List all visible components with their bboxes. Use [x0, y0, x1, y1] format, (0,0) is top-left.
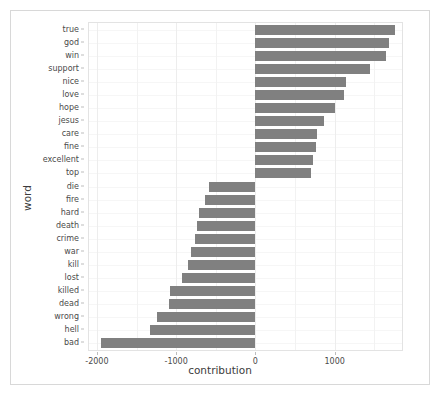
- y-axis-tick-mark: [81, 329, 84, 330]
- y-axis-tick-mark: [81, 303, 84, 304]
- bar: [209, 182, 256, 192]
- bar-series: [89, 23, 402, 350]
- y-axis-tick-mark: [81, 107, 84, 108]
- y-axis-tick-label: nice: [62, 76, 79, 85]
- bar: [157, 312, 255, 322]
- plot-area: word truegodwinsupportnicelovehopejesusc…: [11, 11, 429, 384]
- bar: [255, 129, 317, 139]
- x-axis-tick-mark: [176, 352, 177, 355]
- y-axis-tick-label: hard: [61, 207, 79, 216]
- bar: [205, 195, 256, 205]
- x-axis-tick-mark: [335, 352, 336, 355]
- y-axis-tick-mark: [81, 133, 84, 134]
- bar: [191, 247, 255, 257]
- plot-panel: [88, 22, 403, 351]
- bar: [195, 234, 255, 244]
- y-axis-tick-mark: [81, 120, 84, 121]
- bar: [197, 221, 255, 231]
- y-axis-tick-label: lost: [65, 273, 79, 282]
- y-axis-tick-label: love: [62, 89, 79, 98]
- y-axis-tick-mark: [81, 316, 84, 317]
- y-axis-tick-mark: [81, 41, 84, 42]
- y-axis-tick-label: death: [56, 220, 79, 229]
- y-axis-tick-label: fire: [66, 194, 79, 203]
- y-axis-tick-mark: [81, 146, 84, 147]
- bar: [255, 64, 370, 74]
- y-axis-tick-mark: [81, 277, 84, 278]
- bar: [255, 25, 395, 35]
- y-axis-tick-label: hell: [65, 325, 79, 334]
- y-axis-tick-label: win: [65, 50, 79, 59]
- y-axis-tick-mark: [81, 172, 84, 173]
- y-axis-tick-label: support: [48, 63, 79, 72]
- bar: [169, 299, 255, 309]
- bar: [255, 77, 345, 87]
- y-axis-tick-label: excellent: [43, 155, 79, 164]
- y-axis-tick-label: kill: [68, 259, 79, 268]
- y-axis-tick-mark: [81, 224, 84, 225]
- bar: [150, 325, 256, 335]
- y-axis-tick-label: crime: [56, 233, 79, 242]
- y-axis-tick-mark: [81, 211, 84, 212]
- x-axis-tick-mark: [97, 352, 98, 355]
- y-axis-tick-mark: [81, 290, 84, 291]
- y-axis-tick-mark: [81, 342, 84, 343]
- y-axis-tick-mark: [81, 263, 84, 264]
- y-axis-tick-label: care: [62, 129, 79, 138]
- y-axis-tick-label: true: [63, 24, 79, 33]
- bar: [170, 286, 255, 296]
- figure-frame: word truegodwinsupportnicelovehopejesusc…: [10, 10, 430, 385]
- y-axis-tick-label: wrong: [54, 312, 79, 321]
- y-axis-tick-label: hope: [59, 103, 79, 112]
- bar: [255, 90, 344, 100]
- y-axis-tick-mark: [81, 67, 84, 68]
- y-axis-tick-mark: [81, 159, 84, 160]
- bar: [255, 38, 389, 48]
- y-axis-tick-label: killed: [58, 286, 79, 295]
- bar: [255, 103, 335, 113]
- bar: [255, 155, 312, 165]
- y-axis-tick-label: fine: [64, 142, 79, 151]
- y-axis-tick-label: bad: [64, 338, 79, 347]
- y-axis-tick-label: top: [66, 168, 79, 177]
- y-axis-tick-label: dead: [59, 299, 79, 308]
- y-axis-tick-mark: [81, 80, 84, 81]
- y-axis-tick-mark: [81, 54, 84, 55]
- x-axis-tick-mark: [255, 352, 256, 355]
- bar: [255, 51, 386, 61]
- y-axis-tick-mark: [81, 93, 84, 94]
- y-axis-tick-label: god: [64, 37, 79, 46]
- y-axis-tick-label: jesus: [58, 116, 79, 125]
- y-axis-tick-mark: [81, 28, 84, 29]
- y-axis-tick-labels: truegodwinsupportnicelovehopejesuscarefi…: [11, 22, 84, 351]
- y-axis-tick-label: war: [64, 246, 79, 255]
- bar: [101, 338, 256, 348]
- bar: [188, 260, 255, 270]
- y-axis-tick-label: die: [67, 181, 79, 190]
- bar: [182, 273, 256, 283]
- x-axis-title: contribution: [11, 364, 429, 376]
- bar: [255, 142, 315, 152]
- y-axis-tick-mark: [81, 198, 84, 199]
- y-axis-tick-mark: [81, 250, 84, 251]
- bar: [255, 116, 323, 126]
- bar: [199, 208, 255, 218]
- bar: [255, 168, 311, 178]
- y-axis-tick-mark: [81, 185, 84, 186]
- y-axis-tick-mark: [81, 237, 84, 238]
